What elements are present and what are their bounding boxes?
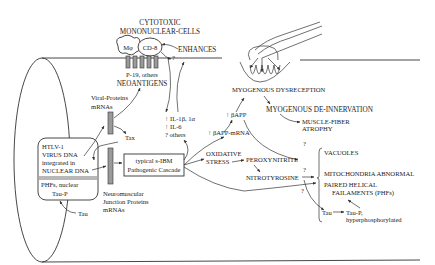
cytokine-il1: ↑ IL-1β, 1α: [165, 115, 196, 122]
cytotoxic-cells-group: CYTOTOXIC MONONUCLEAR-CELLS Mφ CD-8 ENHA…: [117, 19, 217, 61]
tau-left-label: Tau: [78, 210, 88, 217]
phf-label-1: PAIRED HELICAL: [324, 181, 377, 188]
cytokines-group: ↑ IL-1β, 1α ↑ IL-6 ? others: [165, 58, 196, 160]
peroxynitrite-label: PEROXYNITRITE: [246, 156, 298, 163]
atrophy-label-1: MUSCLE-FIBER: [302, 118, 350, 125]
viral-proteins-group: Viral-Proteins mRNAs Tax: [91, 88, 140, 141]
vacuoles-label: VACUOLES: [324, 149, 359, 156]
nmj-label-2: Junction Proteins: [103, 198, 149, 205]
question-vacuoles: ?: [303, 140, 306, 147]
dysreception-label: MYOGENOUS DYSRECEPTION: [232, 86, 325, 93]
viral-proteins-label-1: Viral-Proteins: [91, 94, 128, 101]
htlv-line-2: VIRUS DNA: [42, 151, 78, 158]
htlv-line-3: integrated in: [42, 159, 76, 166]
outcomes-group: VACUOLES MITOCHONDRIA ABNORMAL PAIRED HE…: [301, 140, 414, 223]
oxidative-label-2: STRESS: [206, 158, 230, 165]
htlv-line-4: NUCLEAR DNA: [42, 167, 89, 174]
neoantigen-bars: P-19, others NEOANTIGENS: [117, 56, 168, 88]
taup-outcome-label-2: hyperphosphorylated: [346, 216, 402, 223]
mito-label: MITOCHONDRIA ABNORMAL: [324, 170, 414, 177]
cd8-label: CD-8: [143, 44, 158, 51]
viral-proteins-label-2: mRNAs: [91, 103, 113, 110]
cytokine-il6: ↑ IL-6: [165, 123, 182, 130]
tax-label: Tax: [125, 134, 135, 141]
s-ibm-pathogenesis-diagram: CYTOTOXIC MONONUCLEAR-CELLS Mφ CD-8 ENHA…: [0, 0, 435, 265]
enhances-question: ?: [172, 54, 175, 61]
question-phf: ?: [301, 187, 304, 194]
cytotoxic-label-1: CYTOTOXIC: [139, 19, 180, 27]
atrophy-label-2: ATROPHY: [302, 125, 333, 132]
oxidative-label-1: OXIDATIVE: [206, 150, 242, 157]
neoantigens-label-1: P-19, others: [126, 71, 158, 78]
phf-label-2: FAILAMENTS (PHFs): [332, 189, 394, 197]
cascade-line-1: typical s-IBM: [136, 157, 173, 164]
nitrotyrosine-label: NITROTYROSINE: [246, 174, 299, 181]
cytotoxic-label-2: MONONUCLEAR-CELLS: [120, 28, 200, 36]
enhances-label: ENHANCES: [178, 46, 216, 54]
cascade-box: typical s-IBM Pathogenic Cascade: [124, 154, 184, 176]
macrophage-label: Mφ: [123, 44, 133, 51]
tau-p-nuclear-label: Tau-P: [52, 190, 68, 197]
cytokine-others: ? others: [165, 131, 186, 138]
neuromuscular-junction: MYOGENOUS DYSRECEPTION: [232, 22, 325, 93]
taup-outcome-label-1: Tau-P,: [346, 209, 363, 216]
denervation-label: MYOGENOUS DE-INNERVATION: [266, 106, 374, 114]
neoantigens-label-2: NEOANTIGENS: [117, 80, 168, 88]
cascade-line-2: Pathogenic Cascade: [128, 166, 181, 173]
question-mito: ?: [303, 166, 306, 173]
phfs-nuclear-label: PHFs, nuclear: [41, 181, 79, 188]
nmj-label-3: mRNAs: [103, 206, 125, 213]
nmj-label-1: Neuromuscular: [103, 190, 144, 197]
htlv-box: HTLV-1 VIRUS DNA integrated in NUCLEAR D…: [38, 126, 118, 200]
bapp-mrna-label: ↑ βAPP-mRNA: [208, 129, 250, 136]
htlv-line-1: HTLV-1: [42, 143, 64, 150]
